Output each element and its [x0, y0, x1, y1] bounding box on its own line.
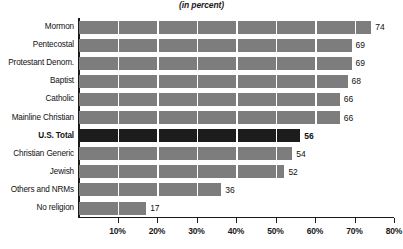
x-axis-tick: [315, 218, 316, 223]
category-label: Jewish: [0, 163, 74, 181]
x-axis-tick: [394, 218, 395, 223]
bar-chart: (in percent) Mormon74Pentecostal69Protes…: [0, 0, 403, 249]
category-label: Baptist: [0, 72, 74, 90]
gridline: [118, 18, 119, 217]
category-label: No religion: [0, 199, 74, 217]
bar: [79, 39, 352, 52]
bar: [79, 57, 352, 70]
chart-row: Baptist68: [0, 72, 403, 90]
bar-value-label: 69: [356, 36, 365, 54]
bar-value-label: 52: [288, 163, 297, 181]
bar: [79, 75, 348, 88]
chart-row: Pentecostal69: [0, 36, 403, 54]
bar: [79, 165, 284, 178]
bar: [79, 202, 146, 215]
bar: [79, 147, 292, 160]
bar-value-label: 66: [344, 90, 353, 108]
category-label: Others and NRMs: [0, 181, 74, 199]
category-label: Christian Generic: [0, 145, 74, 163]
gridline: [394, 18, 395, 217]
x-axis-tick-label: 70%: [335, 226, 375, 236]
x-axis-tick-label: 50%: [256, 226, 296, 236]
gridline: [157, 18, 158, 217]
x-axis-tick: [276, 218, 277, 223]
bar-value-label: 54: [296, 145, 305, 163]
x-axis-tick: [118, 218, 119, 223]
category-label: Mainline Christian: [0, 109, 74, 127]
bar-value-label: 68: [352, 72, 361, 90]
category-label: Mormon: [0, 18, 74, 36]
bar-value-label: 36: [225, 181, 234, 199]
bar: [79, 21, 371, 34]
gridline: [236, 18, 237, 217]
bar: [79, 129, 300, 142]
x-axis-tick-label: 80%: [374, 226, 403, 236]
x-axis-tick: [197, 218, 198, 223]
x-axis-tick-label: 30%: [177, 226, 217, 236]
x-axis-tick-label: 60%: [295, 226, 335, 236]
x-axis-tick-label: 20%: [137, 226, 177, 236]
chart-subtitle: (in percent): [0, 0, 403, 10]
x-axis-tick: [157, 218, 158, 223]
bar: [79, 183, 221, 196]
bar-value-label: 66: [344, 109, 353, 127]
bar-value-label: 56: [304, 127, 313, 145]
gridline: [315, 18, 316, 217]
category-label: Protestant Denom.: [0, 54, 74, 72]
gridline: [276, 18, 277, 217]
x-axis-tick: [236, 218, 237, 223]
category-label: U.S. Total: [0, 127, 74, 145]
x-axis-tick-label: 40%: [216, 226, 256, 236]
bar-value-label: 17: [150, 199, 159, 217]
bar-value-label: 69: [356, 54, 365, 72]
gridline: [197, 18, 198, 217]
bar-value-label: 74: [375, 18, 384, 36]
category-label: Catholic: [0, 90, 74, 108]
x-axis-tick: [355, 218, 356, 223]
x-axis-tick-label: 10%: [98, 226, 138, 236]
chart-row: Mormon74: [0, 18, 403, 36]
chart-row: Protestant Denom.69: [0, 54, 403, 72]
category-label: Pentecostal: [0, 36, 74, 54]
